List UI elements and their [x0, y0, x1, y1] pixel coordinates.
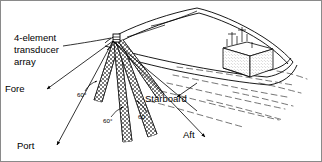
array-label-line2: transducer: [14, 44, 59, 55]
starboard-label: Starboard: [145, 93, 187, 104]
angle-port-fore-label: 60°: [77, 91, 87, 98]
fore-label: Fore: [5, 83, 25, 94]
array-label-line1: 4-element: [14, 32, 57, 43]
array-leader-line: [63, 38, 111, 46]
array-label-line3: array: [14, 56, 36, 67]
aft-label: Aft: [183, 129, 195, 140]
diagram-canvas: 4-element transducer array Fore Port Sta…: [1, 1, 322, 162]
angle-center-label: 60°: [103, 117, 113, 124]
sonar-beam-diagram: 4-element transducer array Fore Port Sta…: [0, 0, 322, 162]
transducer-array: [113, 34, 120, 42]
transducer-beams: [94, 34, 164, 142]
angle-starboard-label: 60: [138, 113, 145, 120]
port-label: Port: [17, 140, 35, 151]
deckhouse: [223, 42, 273, 77]
